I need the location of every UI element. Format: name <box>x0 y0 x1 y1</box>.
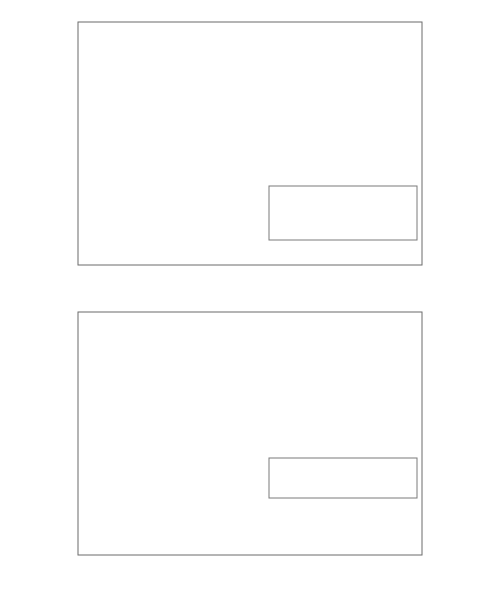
bottom-plot-frame <box>78 312 422 555</box>
chart-panel-bottom <box>0 298 500 596</box>
bottom-legend-box <box>269 458 417 498</box>
chart-panel-top <box>0 0 500 298</box>
bottom-panel-svg <box>0 298 500 596</box>
bottom-panel-legend[interactable] <box>269 458 417 498</box>
top-panel-svg <box>0 0 500 298</box>
figure-root <box>0 0 500 596</box>
top-panel-legend[interactable] <box>269 186 417 240</box>
top-legend-box <box>269 186 417 240</box>
